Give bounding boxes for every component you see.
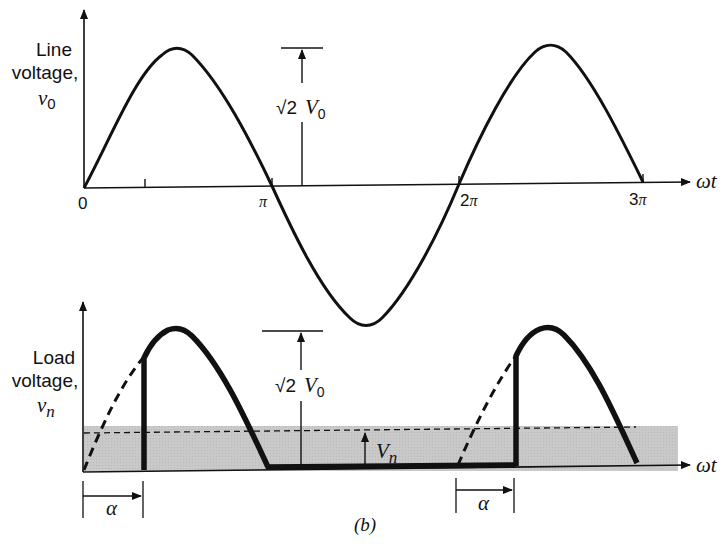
tick-label-3pi: 3π <box>629 190 647 209</box>
top-panel-line-voltage: √2V0 Line voltage, v0 0 π 2π 3π ωt <box>12 10 718 326</box>
bottom-ylabel-line1: Load <box>33 347 75 368</box>
firing-angle-marker-1: α <box>83 481 143 520</box>
amplitude-label: √2V0 <box>276 95 326 122</box>
top-ylabel-line2: voltage, <box>12 62 79 83</box>
alpha-label-2: α <box>478 491 490 515</box>
figure-label: (b) <box>352 514 378 536</box>
amplitude-label-bottom: √2V0 <box>275 373 325 400</box>
alpha-label-1: α <box>106 496 118 520</box>
tick-label-0: 0 <box>78 194 87 213</box>
phase-control-diagram: √2V0 Line voltage, v0 0 π 2π 3π ωt √2V0 <box>0 0 727 544</box>
tick-label-2pi: 2π <box>460 191 478 210</box>
bottom-ylabel-line2: voltage, <box>12 370 79 391</box>
top-xlabel-omega-t: ωt <box>696 169 718 193</box>
top-ylabel-symbol: v0 <box>38 86 56 112</box>
bottom-panel-load-voltage: √2V0 Vn Load voltage, vn ωt α α <box>12 302 718 520</box>
top-ylabel-line1: Line <box>36 39 72 60</box>
bottom-xlabel-omega-t: ωt <box>696 453 718 477</box>
tick-label-pi: π <box>259 193 268 210</box>
bottom-ylabel-symbol: vn <box>37 393 55 421</box>
top-x-axis <box>84 182 690 188</box>
firing-angle-marker-2: α <box>456 478 514 515</box>
